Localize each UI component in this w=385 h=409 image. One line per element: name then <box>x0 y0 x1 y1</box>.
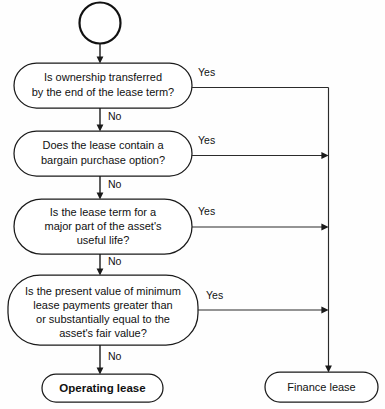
outcome-operating-lease-label: Operating lease <box>59 382 145 394</box>
outcome-finance-lease-label: Finance lease <box>287 381 356 393</box>
decision-present-value-line-4: asset's fair value? <box>59 327 147 339</box>
edge-label-present-value-no: No <box>108 350 122 362</box>
edge-label-bargain-purchase-yes: Yes <box>198 134 215 146</box>
decision-lease-term-line-3: useful life? <box>77 234 130 246</box>
edge-label-ownership-yes: Yes <box>198 66 215 78</box>
edge-label-lease-term-no: No <box>108 255 122 267</box>
decision-present-value-line-1: Is the present value of minimum <box>25 285 181 297</box>
decision-ownership-line-1: Is ownership transferred <box>44 71 162 83</box>
flowchart-diagram: Is ownership transferred by the end of t… <box>0 0 385 409</box>
start-circle <box>80 3 121 44</box>
edge-label-lease-term-yes: Yes <box>198 205 215 217</box>
decision-bargain-purchase-line-1: Does the lease contain a <box>42 139 164 151</box>
decision-present-value-line-3: or substantially equal to the <box>36 313 170 325</box>
edge-label-present-value-yes: Yes <box>206 289 223 301</box>
decision-ownership-line-2: by the end of the lease term? <box>32 86 174 98</box>
decision-bargain-purchase-line-2: bargain purchase option? <box>41 154 165 166</box>
flowchart-canvas: Is ownership transferred by the end of t… <box>0 0 385 409</box>
decision-lease-term-line-2: major part of the asset's <box>44 220 162 232</box>
edge-label-ownership-no: No <box>108 110 122 122</box>
decision-lease-term-line-1: Is the lease term for a <box>50 206 157 218</box>
decision-present-value-line-2: lease payments greater than <box>33 299 172 311</box>
edge-label-bargain-purchase-no: No <box>108 178 122 190</box>
